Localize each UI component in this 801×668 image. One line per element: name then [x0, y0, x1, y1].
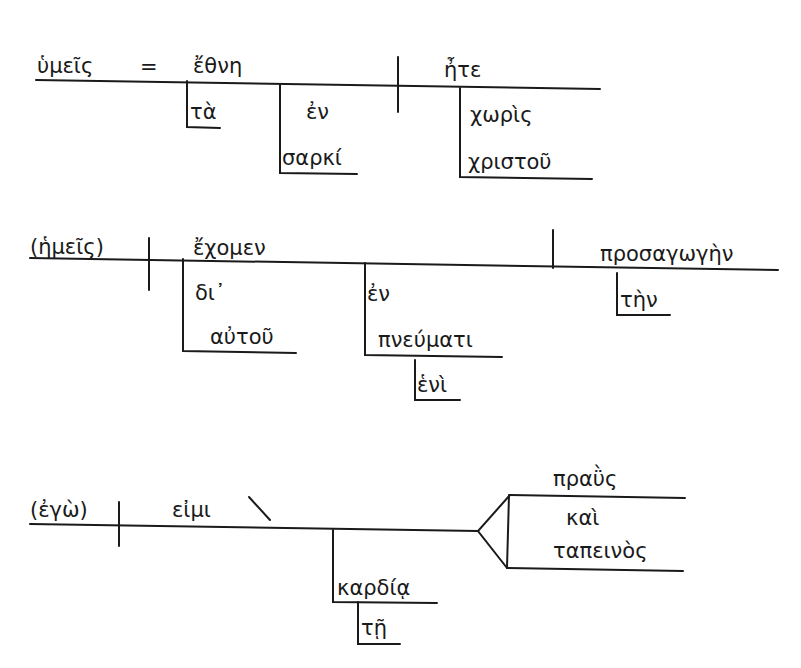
sentence-diagram: ὑμεῖς = ἔθνη ἦτε τὰ ἐν σαρκί χωρὶς χριστ…	[0, 0, 801, 668]
s2-prep1: δι᾽	[195, 283, 225, 304]
s1-equals: =	[140, 57, 158, 78]
s3-verb: εἰμι	[172, 500, 211, 521]
s3-dative-article: τῇ	[361, 618, 387, 639]
s3-dative: καρδίᾳ	[337, 578, 410, 599]
s1-prep-object: σαρκί	[282, 148, 342, 169]
s3-compound-bracket	[507, 495, 509, 568]
s2-object-article: τὴν	[620, 290, 658, 311]
s2-object: προσαγωγὴν	[600, 244, 733, 265]
s1-adverb-object: χριστοῦ	[468, 152, 552, 173]
s2-verb: ἔχομεν	[193, 238, 266, 259]
s1-baseline	[36, 80, 600, 89]
s3-compound-second: ταπεινὸς	[553, 541, 648, 562]
s3-compound-line-2	[507, 568, 683, 571]
s2-prep2-object-mod: ἑνὶ	[417, 375, 447, 396]
s1-prep: ἐν	[306, 102, 329, 123]
s2-subject: (ἡμεῖς)	[30, 237, 104, 258]
s2-prep2-object: πνεύματι	[378, 330, 473, 351]
s3-subject: (ἐγὼ)	[30, 500, 88, 521]
s1-verb: ἦτε	[444, 60, 481, 81]
s1-predicate-nominative: ἔθνη	[193, 56, 242, 77]
s3-compound-line-1	[510, 495, 685, 498]
s3-baseline	[30, 524, 478, 531]
s3-compound-first: πραῢς	[553, 469, 617, 490]
s2-prep1-object: αὐτοῦ	[210, 327, 274, 348]
s1-article: τὰ	[190, 102, 217, 123]
s3-compound-conjunction: καὶ	[566, 508, 599, 529]
s3-predicate-slash	[249, 497, 270, 520]
s2-prep2: ἐν	[367, 284, 390, 305]
s3-compound-fork	[478, 495, 510, 568]
s1-subject: ὑμεῖς	[37, 56, 93, 77]
s1-adverb-prep: χωρὶς	[470, 105, 532, 126]
